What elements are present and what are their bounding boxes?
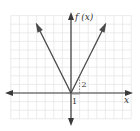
x-axis-label: x [124,95,129,105]
rise-label: 2 [82,80,87,89]
y-axis-label: f (x) [74,12,94,22]
x-axis-left-arrow [5,90,13,96]
run-label: 1 [72,97,77,106]
y-axis-down-arrow [68,118,74,126]
absolute-value-graph: f (x) x 1 2 [0,0,140,131]
y-axis-up-arrow [68,12,74,20]
